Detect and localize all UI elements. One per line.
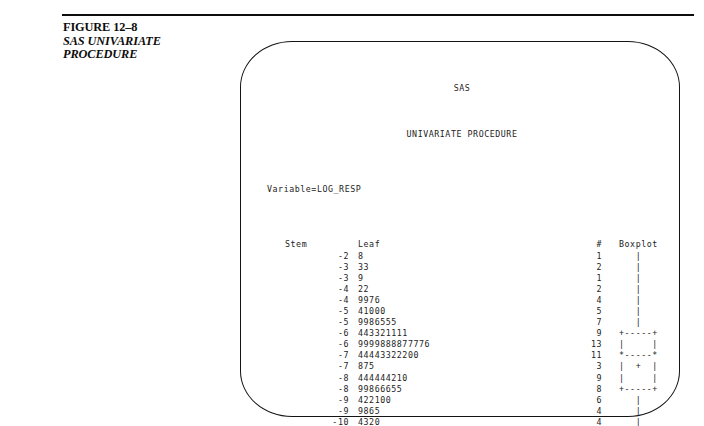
cell-leaf: 9976 [349, 295, 544, 306]
cell-leaf: 443321111 [349, 328, 544, 339]
table-row: -391 | [252, 273, 704, 284]
cell-leaf: 22 [349, 284, 544, 295]
cell-leaf: 99866655 [349, 384, 544, 395]
cell-count: 8 [544, 384, 602, 395]
cell-count: 5 [544, 306, 602, 317]
cell-boxplot: | [602, 395, 704, 406]
cell-boxplot: | [602, 251, 704, 262]
cell-count: 2 [544, 262, 602, 273]
cell-stem: -4 [252, 284, 349, 295]
sas-system-title: SAS [252, 83, 672, 94]
cell-stem: -8 [252, 384, 349, 395]
column-header-count: # [544, 239, 602, 250]
figure-title-line-1: SAS UNIVARIATE [63, 35, 243, 49]
cell-leaf: 875 [349, 361, 544, 372]
cell-leaf: 9999888877776 [349, 339, 544, 350]
cell-count: 9 [544, 328, 602, 339]
column-header-leaf: Leaf [349, 239, 544, 250]
table-row: -8998666558+-----+ [252, 384, 704, 395]
cell-stem: -2 [252, 251, 349, 262]
cell-stem: -6 [252, 328, 349, 339]
cell-stem: -9 [252, 406, 349, 417]
cell-count: 11 [544, 350, 602, 361]
cell-count: 1 [544, 273, 602, 284]
column-header-boxplot: Boxplot [602, 239, 704, 250]
cell-leaf: 422100 [349, 395, 544, 406]
cell-leaf: 9 [349, 273, 544, 284]
cell-boxplot: | [602, 406, 704, 417]
figure-caption: FIGURE 12–8 SAS UNIVARIATE PROCEDURE [63, 21, 243, 62]
cell-leaf: 44443322200 [349, 350, 544, 361]
cell-leaf: 33 [349, 262, 544, 273]
top-horizontal-rule [62, 14, 694, 16]
cell-stem: -7 [252, 361, 349, 372]
cell-stem: -6 [252, 339, 349, 350]
variable-label: Variable=LOG_RESP [252, 184, 672, 195]
table-row: -1043204 | [252, 417, 704, 426]
cell-count: 3 [544, 361, 602, 372]
cell-stem: -9 [252, 395, 349, 406]
table-row: -6999988887777613| | [252, 339, 704, 350]
cell-boxplot: | | [602, 339, 704, 350]
column-header-stem: Stem [252, 239, 349, 250]
stem-and-leaf-body: -281 |-3332 |-391 |-4222 |-499764 |-5410… [252, 251, 704, 426]
cell-boxplot: | + | [602, 361, 704, 372]
cell-leaf: 444444210 [349, 373, 544, 384]
cell-stem: -10 [252, 417, 349, 426]
table-row: -74444332220011*-----* [252, 350, 704, 361]
cell-leaf: 4320 [349, 417, 544, 426]
cell-count: 4 [544, 417, 602, 426]
stem-and-leaf-table: Stem Leaf # Boxplot -281 |-3332 |-391 |-… [252, 239, 704, 426]
figure-title-line-2: PROCEDURE [63, 48, 243, 62]
table-row: -64433211119+-----+ [252, 328, 704, 339]
cell-stem: -7 [252, 350, 349, 361]
table-row: -84444442109| | [252, 373, 704, 384]
cell-boxplot: | [602, 306, 704, 317]
figure-number: FIGURE 12–8 [63, 21, 243, 35]
table-header-row: Stem Leaf # Boxplot [252, 239, 704, 250]
cell-stem: -3 [252, 262, 349, 273]
cell-count: 2 [544, 284, 602, 295]
cell-boxplot: +-----+ [602, 384, 704, 395]
table-row: -499764 | [252, 295, 704, 306]
table-row: -5410005 | [252, 306, 704, 317]
cell-stem: -8 [252, 373, 349, 384]
cell-count: 6 [544, 395, 602, 406]
table-row: -94221006 | [252, 395, 704, 406]
table-row: -3332 | [252, 262, 704, 273]
cell-boxplot: | [602, 317, 704, 328]
cell-boxplot: | [602, 262, 704, 273]
cell-stem: -3 [252, 273, 349, 284]
cell-stem: -5 [252, 306, 349, 317]
cell-stem: -5 [252, 317, 349, 328]
cell-count: 9 [544, 373, 602, 384]
cell-boxplot: *-----* [602, 350, 704, 361]
table-row: -998654 | [252, 406, 704, 417]
cell-leaf: 41000 [349, 306, 544, 317]
cell-stem: -4 [252, 295, 349, 306]
cell-leaf: 8 [349, 251, 544, 262]
cell-boxplot: | [602, 284, 704, 295]
cell-leaf: 9865 [349, 406, 544, 417]
cell-boxplot: | | [602, 373, 704, 384]
cell-count: 4 [544, 406, 602, 417]
univariate-procedure-title: UNIVARIATE PROCEDURE [252, 129, 672, 140]
cell-count: 1 [544, 251, 602, 262]
table-row: -78753| + | [252, 361, 704, 372]
cell-count: 4 [544, 295, 602, 306]
cell-boxplot: +-----+ [602, 328, 704, 339]
table-row: -4222 | [252, 284, 704, 295]
table-row: -281 | [252, 251, 704, 262]
cell-boxplot: | [602, 417, 704, 426]
cell-leaf: 9986555 [349, 317, 544, 328]
cell-count: 7 [544, 317, 602, 328]
cell-boxplot: | [602, 273, 704, 284]
terminal-output: SAS UNIVARIATE PROCEDURE Variable=LOG_RE… [252, 46, 672, 412]
cell-boxplot: | [602, 295, 704, 306]
table-row: -599865557 | [252, 317, 704, 328]
cell-count: 13 [544, 339, 602, 350]
